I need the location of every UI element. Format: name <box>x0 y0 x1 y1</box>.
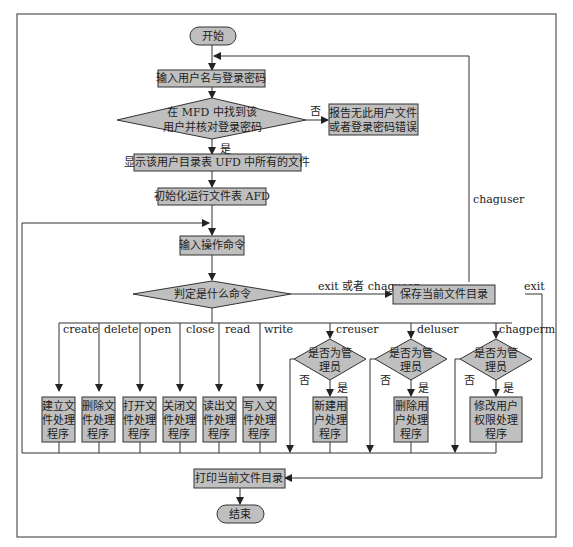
end-terminal: 结束 <box>217 505 264 523</box>
svg-text:读出文: 读出文 <box>203 399 236 413</box>
svg-text:结束: 结束 <box>229 508 251 521</box>
check-mfd-decision: 在 MFD 中找到该 用户并核对登录密码 <box>117 98 306 139</box>
svg-text:显示该用户目录表 UFD 中所有的文件: 显示该用户目录表 UFD 中所有的文件 <box>124 155 311 169</box>
label-no-creuser: 否 <box>299 374 310 387</box>
svg-text:判定是什么命令: 判定是什么命令 <box>174 287 251 301</box>
label-deluser: deluser <box>417 323 459 336</box>
label-open: open <box>144 323 171 336</box>
svg-text:修改用户: 修改用户 <box>474 399 518 413</box>
svg-text:报告无此用户文件: 报告无此用户文件 <box>329 106 417 120</box>
svg-text:件处理: 件处理 <box>123 414 156 427</box>
svg-text:是否为管: 是否为管 <box>308 346 352 360</box>
svg-text:打印当前文件目录: 打印当前文件目录 <box>195 471 283 485</box>
label-creuser: creuser <box>336 323 379 336</box>
label-yes-deluser: 是 <box>418 382 429 395</box>
label-no-deluser: 否 <box>380 374 391 387</box>
label-chaguser-loop: chaguser <box>473 193 525 206</box>
svg-text:删除用: 删除用 <box>395 399 428 413</box>
svg-text:用户并核对登录密码: 用户并核对登录密码 <box>163 120 262 134</box>
svg-text:件处理: 件处理 <box>42 414 75 427</box>
svg-text:程序: 程序 <box>400 427 422 441</box>
svg-text:权限处理: 权限处理 <box>474 414 518 427</box>
svg-text:程序: 程序 <box>208 427 230 441</box>
label-delete: delete <box>104 323 139 336</box>
svg-text:输入操作命令: 输入操作命令 <box>179 238 245 252</box>
svg-text:保存当前文件目录: 保存当前文件目录 <box>400 287 488 301</box>
svg-text:程序: 程序 <box>168 427 190 441</box>
svg-text:理员: 理员 <box>485 361 507 374</box>
svg-text:件处理: 件处理 <box>163 414 196 427</box>
svg-text:程序: 程序 <box>128 427 150 441</box>
label-read: read <box>225 323 250 336</box>
save-directory-box: 保存当前文件目录 <box>393 285 495 304</box>
show-ufd-box: 显示该用户目录表 UFD 中所有的文件 <box>124 154 311 171</box>
start-terminal: 开始 <box>190 27 236 45</box>
print-directory-box: 打印当前文件目录 <box>194 469 285 488</box>
label-exit: exit <box>524 280 545 293</box>
label-write: write <box>264 323 293 336</box>
svg-text:写入文: 写入文 <box>243 399 276 413</box>
label-yes-chagperm: 是 <box>503 382 514 395</box>
label-close: close <box>186 323 214 336</box>
svg-text:件处理: 件处理 <box>203 414 236 427</box>
decide-command-decision: 判定是什么命令 <box>133 281 291 308</box>
svg-text:开始: 开始 <box>202 29 224 43</box>
svg-text:在 MFD 中找到该: 在 MFD 中找到该 <box>167 105 257 119</box>
read-file-handler-box: 读出文 件处理 程序 <box>203 397 237 442</box>
svg-text:户处理: 户处理 <box>395 413 428 427</box>
svg-text:程序: 程序 <box>485 427 507 441</box>
svg-text:户处理: 户处理 <box>314 413 347 427</box>
svg-text:输入用户名与登录密码: 输入用户名与登录密码 <box>156 71 266 85</box>
init-afd-box: 初始化运行文件表 AFD <box>154 188 270 205</box>
create-user-handler-box: 新建用 户处理 程序 <box>313 397 347 442</box>
svg-text:新建用: 新建用 <box>314 399 347 413</box>
svg-text:件处理: 件处理 <box>243 414 276 427</box>
label-no-chagperm: 否 <box>464 374 475 387</box>
error-report-box: 报告无此用户文件 或者登录密码错误 <box>329 104 418 135</box>
change-permission-handler-box: 修改用户 权限处理 程序 <box>470 397 522 442</box>
svg-text:建立文: 建立文 <box>42 399 75 413</box>
create-file-handler-box: 建立文 件处理 程序 <box>42 397 76 442</box>
close-file-handler-box: 关闭文 件处理 程序 <box>163 397 197 442</box>
input-command-box: 输入操作命令 <box>179 236 245 255</box>
svg-text:件处理: 件处理 <box>82 414 115 427</box>
write-file-handler-box: 写入文 件处理 程序 <box>243 397 277 442</box>
input-login-box: 输入用户名与登录密码 <box>156 70 266 87</box>
svg-text:程序: 程序 <box>248 427 270 441</box>
svg-text:删除文: 删除文 <box>82 399 115 413</box>
delete-user-handler-box: 删除用 户处理 程序 <box>394 397 428 442</box>
label-chagperm: chagperm <box>499 323 556 336</box>
svg-text:理员: 理员 <box>319 361 341 374</box>
delete-file-handler-box: 删除文 件处理 程序 <box>82 397 116 442</box>
svg-text:程序: 程序 <box>319 427 341 441</box>
label-yes-creuser: 是 <box>337 382 348 395</box>
open-file-handler-box: 打开文 件处理 程序 <box>123 397 157 442</box>
label-no-login: 否 <box>310 105 321 118</box>
svg-text:程序: 程序 <box>87 427 109 441</box>
svg-text:是否为管: 是否为管 <box>389 346 433 360</box>
svg-text:是否为管: 是否为管 <box>474 346 518 360</box>
svg-text:或者登录密码错误: 或者登录密码错误 <box>329 120 417 134</box>
label-create: create <box>63 323 98 336</box>
svg-text:打开文: 打开文 <box>123 399 156 413</box>
flowchart-canvas: 开始 输入用户名与登录密码 在 MFD 中找到该 用户并核对登录密码 否 报告无… <box>0 0 573 547</box>
svg-text:程序: 程序 <box>47 427 69 441</box>
outer-frame <box>17 14 556 537</box>
svg-text:关闭文: 关闭文 <box>163 399 196 413</box>
svg-text:初始化运行文件表 AFD: 初始化运行文件表 AFD <box>154 189 270 203</box>
svg-text:理员: 理员 <box>400 361 422 374</box>
